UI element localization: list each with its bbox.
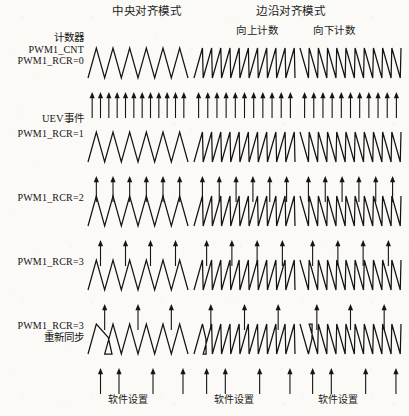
uev-arrow-head — [102, 304, 107, 310]
uev-arrow-head — [177, 176, 182, 182]
waveform-rcr0-center — [88, 48, 188, 78]
uev-arrow-head — [375, 92, 380, 98]
waveform-rcr3-center — [88, 260, 188, 290]
uev-arrow-head — [339, 92, 344, 98]
uev-arrows-rcr3_resync-edge_up — [204, 368, 293, 394]
uev-arrows-rcr1-center — [94, 176, 183, 202]
uev-arrow-head — [348, 92, 353, 98]
uev-arrow-head — [214, 92, 219, 98]
uev-arrow-head — [302, 92, 307, 98]
uev-arrow-head — [131, 92, 136, 98]
uev-arrow-head — [229, 240, 234, 246]
uev-arrow-head — [205, 92, 210, 98]
uev-arrow-head — [208, 304, 213, 310]
uev-arrow-head — [148, 92, 153, 98]
waveform-rcr0-edge_up — [194, 48, 295, 78]
uev-arrow-head — [382, 304, 387, 310]
uev-arrow-head — [160, 176, 165, 182]
waveform-rcr2-center — [88, 196, 188, 226]
uev-arrows-rcr0-edge_down — [302, 92, 399, 118]
uev-arrow-head — [148, 240, 153, 246]
uev-arrow-head — [348, 304, 353, 310]
uev-arrows-rcr3_resync-edge_down — [310, 368, 399, 394]
uev-arrow-head — [255, 240, 260, 246]
uev-arrow-head — [288, 92, 293, 98]
uev-arrow-head — [204, 368, 209, 374]
uev-arrow-head — [314, 304, 319, 310]
waveform-rcr0-edge_down — [300, 48, 401, 78]
waveform-rcr1-edge_up — [194, 132, 295, 162]
uev-arrow-head — [165, 92, 170, 98]
uev-arrow-head — [156, 92, 161, 98]
uev-arrow-head — [90, 92, 95, 98]
uev-arrow-head — [204, 240, 209, 246]
uev-arrow-head — [356, 176, 361, 182]
uev-arrow-head — [357, 92, 362, 98]
uev-arrow-head — [306, 176, 311, 182]
uev-arrow-head — [330, 92, 335, 98]
uev-arrow-head — [224, 92, 229, 98]
waveform-rcr3-edge_down — [300, 260, 401, 290]
uev-arrow-head — [310, 240, 315, 246]
uev-arrow-head — [250, 176, 255, 182]
uev-arrow-head — [223, 368, 228, 374]
uev-arrow-head — [366, 92, 371, 98]
uev-arrows-rcr3-edge_down — [314, 304, 387, 330]
uev-arrow-head — [233, 92, 238, 98]
uev-arrow-head — [233, 176, 238, 182]
waveform-rcr3-edge_up — [194, 260, 295, 290]
uev-arrow-head — [106, 92, 111, 98]
uev-arrows-rcr2-edge_up — [204, 240, 285, 266]
uev-arrows-rcr3-edge_up — [208, 304, 281, 330]
uev-arrows-rcr3_resync-center — [98, 368, 186, 394]
uev-arrow-head — [311, 92, 316, 98]
uev-arrow-head — [217, 176, 222, 182]
uev-arrow-head — [127, 176, 132, 182]
uev-arrow-head — [98, 92, 103, 98]
uev-arrow-head — [329, 368, 334, 374]
waveform-rcr1-center — [88, 132, 188, 162]
uev-arrow-head — [173, 92, 178, 98]
uev-arrow-head — [150, 368, 155, 374]
uev-arrow-head — [269, 92, 274, 98]
waveform-rcr2-edge_down — [300, 196, 401, 226]
uev-arrows-rcr0-edge_up — [196, 92, 293, 118]
uev-arrow-head — [94, 176, 99, 182]
uev-arrow-head — [242, 92, 247, 98]
uev-arrow-head — [280, 240, 285, 246]
uev-arrow-head — [98, 368, 103, 374]
uev-arrow-head — [251, 92, 256, 98]
uev-arrow-head — [335, 240, 340, 246]
uev-arrow-head — [339, 176, 344, 182]
uev-arrows-rcr0-center — [90, 92, 187, 118]
uev-arrow-head — [115, 92, 120, 98]
uev-arrow-head — [361, 240, 366, 246]
uev-arrow-head — [123, 240, 128, 246]
uev-arrow-head — [173, 240, 178, 246]
uev-arrow-head — [180, 368, 185, 374]
uev-arrow-head — [320, 92, 325, 98]
uev-arrow-head — [200, 176, 205, 182]
uev-arrow-head — [257, 368, 262, 374]
uev-arrow-head — [386, 240, 391, 246]
uev-arrow-head — [393, 368, 398, 374]
uev-arrows-rcr2-edge_down — [310, 240, 391, 266]
uev-arrow-head — [123, 92, 128, 98]
uev-arrow-head — [267, 176, 272, 182]
uev-arrow-head — [390, 176, 395, 182]
uev-arrow-head — [323, 176, 328, 182]
uev-arrow-head — [116, 368, 121, 374]
uev-arrow-head — [373, 176, 378, 182]
waveform-plot — [0, 0, 409, 416]
uev-arrow-head — [242, 304, 247, 310]
uev-arrow-head — [284, 176, 289, 182]
uev-arrow-head — [140, 92, 145, 98]
uev-arrow-head — [310, 368, 315, 374]
waveform-rcr2-edge_up — [194, 196, 295, 226]
uev-arrow-head — [394, 92, 399, 98]
uev-arrows-rcr2-center — [98, 240, 178, 266]
uev-arrow-head — [98, 240, 103, 246]
uev-arrow-head — [196, 92, 201, 98]
waveform-rcr1-edge_down — [300, 132, 401, 162]
uev-arrow-head — [279, 92, 284, 98]
